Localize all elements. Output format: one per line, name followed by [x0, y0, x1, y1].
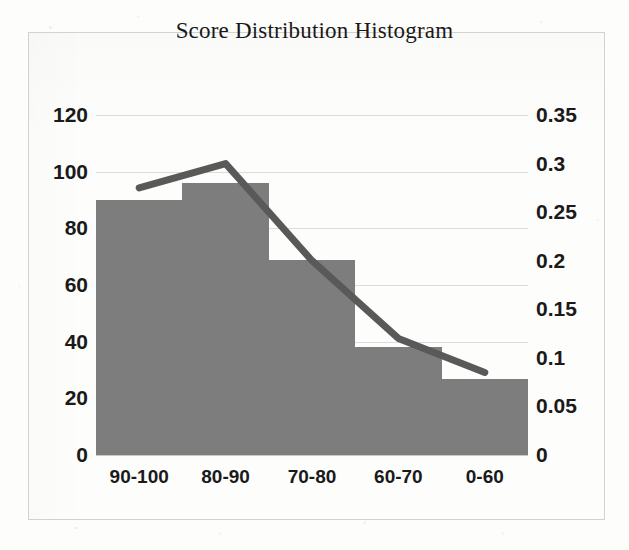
x-axis-tick-label: 90-100	[110, 466, 169, 488]
right-axis-tick-label: 0.2	[536, 249, 565, 273]
right-axis-ticks: 00.050.10.150.20.250.30.35	[536, 115, 606, 455]
right-axis-tick-label: 0.15	[536, 297, 577, 321]
x-axis-tick-label: 0-60	[466, 466, 504, 488]
left-axis-ticks: 020406080100120	[24, 115, 88, 455]
right-axis-tick-label: 0.1	[536, 346, 565, 370]
left-axis-tick-label: 60	[65, 273, 88, 297]
x-axis-categories: 90-10080-9070-8060-700-60	[96, 466, 528, 496]
x-axis-tick-label: 60-70	[374, 466, 423, 488]
left-axis-tick-label: 40	[65, 330, 88, 354]
line-series	[96, 115, 528, 455]
right-axis-tick-label: 0.35	[536, 103, 577, 127]
left-axis-tick-label: 80	[65, 216, 88, 240]
left-axis-tick-label: 100	[53, 160, 88, 184]
right-axis-tick-label: 0	[536, 443, 548, 467]
gridline	[96, 455, 528, 456]
right-axis-tick-label: 0.25	[536, 200, 577, 224]
left-axis-tick-label: 120	[53, 103, 88, 127]
chart-title: Score Distribution Histogram	[0, 18, 629, 44]
right-axis-tick-label: 0.3	[536, 152, 565, 176]
left-axis-tick-label: 20	[65, 386, 88, 410]
chart-screenshot: Score Distribution Histogram 02040608010…	[0, 0, 629, 550]
plot-area	[96, 115, 528, 455]
left-axis-tick-label: 0	[76, 443, 88, 467]
right-axis-tick-label: 0.05	[536, 394, 577, 418]
x-axis-tick-label: 70-80	[288, 466, 337, 488]
line-path	[139, 164, 485, 373]
x-axis-tick-label: 80-90	[201, 466, 250, 488]
